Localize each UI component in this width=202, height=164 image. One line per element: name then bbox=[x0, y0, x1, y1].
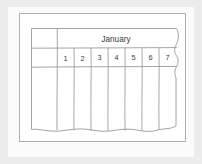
table-illustration: January 1 2 3 4 5 6 7 bbox=[0, 0, 202, 164]
table-title: January bbox=[101, 35, 131, 44]
title-row-bottom-rule bbox=[32, 48, 178, 49]
column-header-3: 3 bbox=[98, 53, 102, 62]
table-sheet bbox=[32, 29, 179, 132]
column-header-7: 7 bbox=[166, 53, 170, 62]
figure-canvas: January 1 2 3 4 5 6 7 bbox=[0, 0, 202, 164]
column-header-4: 4 bbox=[115, 53, 119, 62]
column-header-5: 5 bbox=[132, 53, 136, 62]
column-header-2: 2 bbox=[81, 54, 85, 63]
column-header-6: 6 bbox=[149, 53, 153, 62]
column-header-1: 1 bbox=[64, 54, 68, 63]
